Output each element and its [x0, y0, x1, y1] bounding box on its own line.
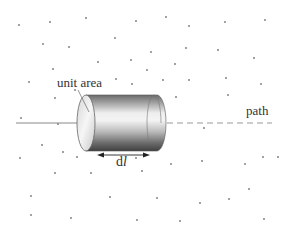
- particle-dot: [175, 96, 177, 98]
- particle-dot: [90, 172, 92, 174]
- particle-dot: [28, 81, 30, 83]
- arrow-head-right-icon: [143, 153, 150, 158]
- particle-dot: [146, 69, 148, 71]
- cylinder-body: [86, 95, 166, 151]
- particle-dot: [135, 157, 137, 159]
- particle-dot: [141, 170, 143, 172]
- particle-dot: [203, 127, 205, 129]
- particle-dot: [115, 78, 117, 80]
- particle-dot: [68, 46, 70, 48]
- particle-dot: [20, 117, 22, 119]
- unit-area-face: [77, 95, 95, 151]
- particle-dot: [49, 21, 51, 23]
- particle-dot: [109, 196, 111, 198]
- particle-dot: [136, 219, 138, 221]
- particle-dot: [188, 79, 190, 81]
- particle-dot: [179, 220, 181, 222]
- unit-area-label: unit area: [57, 76, 102, 89]
- particle-dot: [264, 19, 266, 21]
- cylinder: [77, 95, 166, 151]
- path-label: path: [246, 104, 268, 117]
- dl-variable: l: [123, 154, 127, 169]
- particle-dot: [228, 198, 230, 200]
- particle-dot: [76, 156, 78, 158]
- particle-dot: [97, 61, 99, 63]
- particle-dot: [201, 160, 203, 162]
- particle-dot: [224, 21, 226, 23]
- particle-dot: [253, 57, 255, 59]
- particle-dot: [114, 37, 116, 39]
- particle-dot: [260, 83, 262, 85]
- particle-dot: [244, 163, 246, 165]
- particle-dot: [165, 16, 167, 18]
- particle-dot: [225, 77, 227, 79]
- particle-dot: [19, 157, 21, 159]
- particle-dot: [131, 83, 133, 85]
- particle-dot: [174, 63, 176, 65]
- dl-label: dl: [116, 155, 127, 169]
- particle-dot: [30, 214, 32, 216]
- particle-dot: [262, 156, 264, 158]
- particle-dot: [156, 197, 158, 199]
- particle-dot: [263, 218, 265, 220]
- particle-dot: [277, 156, 279, 158]
- particle-dot: [248, 188, 250, 190]
- particle-dot: [217, 49, 219, 51]
- particle-dot: [70, 217, 72, 219]
- particle-dot: [54, 97, 56, 99]
- particle-dot: [30, 195, 32, 197]
- particle-dot: [150, 51, 152, 53]
- particle-dot: [52, 68, 54, 70]
- particle-dot: [162, 79, 164, 81]
- particle-dot: [170, 163, 172, 165]
- particle-dot: [188, 25, 190, 27]
- particle-dot: [135, 20, 137, 22]
- particle-dot: [130, 59, 132, 61]
- particle-dot: [199, 202, 201, 204]
- particle-dot: [227, 94, 229, 96]
- particle-dot: [41, 144, 43, 146]
- particle-dot: [62, 151, 64, 153]
- dl-prefix: d: [116, 154, 123, 169]
- particle-dot: [42, 43, 44, 45]
- particle-dot: [185, 47, 187, 49]
- arrow-head-left-icon: [97, 153, 104, 158]
- diagram-svg: [0, 0, 286, 228]
- particle-dot: [54, 172, 56, 174]
- particle-dot: [85, 17, 87, 19]
- diagram-canvas: unit area path dl: [0, 0, 286, 228]
- particle-dot: [18, 24, 20, 26]
